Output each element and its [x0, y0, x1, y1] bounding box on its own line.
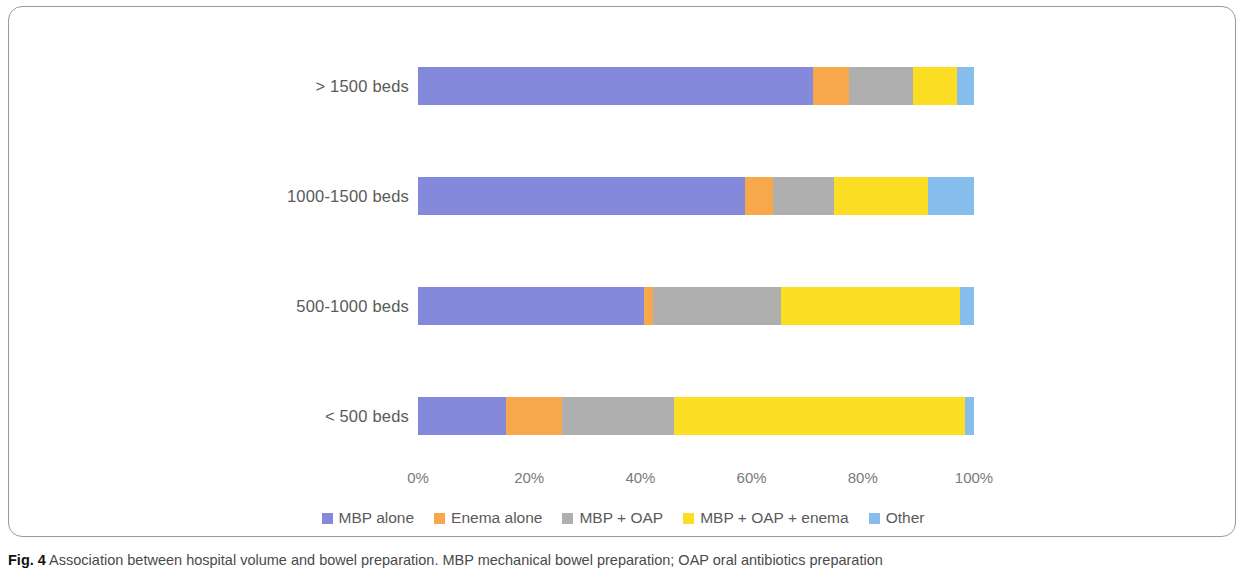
legend-label: MBP + OAP + enema	[700, 509, 848, 527]
bar-segment	[773, 177, 834, 215]
bar-segment	[957, 67, 974, 105]
x-axis: 0%20%40%60%80%100%	[418, 469, 974, 493]
bar-segment	[960, 287, 974, 325]
legend-swatch-icon	[869, 513, 880, 524]
x-tick-label: 80%	[848, 469, 878, 486]
figure-container: > 1500 beds 1000-1500 beds 500-1000 beds…	[0, 0, 1246, 586]
bar-segment	[834, 177, 928, 215]
legend-label: MBP alone	[339, 509, 415, 527]
legend-swatch-icon	[562, 513, 573, 524]
bar-row: 1000-1500 beds	[9, 172, 1237, 220]
bar-segment	[644, 287, 653, 325]
bar-segment	[928, 177, 974, 215]
legend-swatch-icon	[434, 513, 445, 524]
category-label: > 1500 beds	[159, 62, 409, 110]
legend-item: MBP alone	[322, 509, 415, 527]
bar-segment	[418, 397, 506, 435]
legend-label: Enema alone	[451, 509, 542, 527]
bar-segment	[674, 397, 965, 435]
legend-item: MBP + OAP	[562, 509, 663, 527]
legend-swatch-icon	[322, 513, 333, 524]
bar-segment	[418, 287, 644, 325]
stacked-bar	[418, 67, 974, 105]
category-label: < 500 beds	[159, 392, 409, 440]
caption-figure-number: Fig. 4	[8, 552, 46, 568]
bar-segment	[506, 397, 562, 435]
bar-row: 500-1000 beds	[9, 282, 1237, 330]
x-tick-label: 60%	[737, 469, 767, 486]
bar-segment	[781, 287, 960, 325]
bar-row: < 500 beds	[9, 392, 1237, 440]
legend-item: Enema alone	[434, 509, 542, 527]
plot-area: > 1500 beds 1000-1500 beds 500-1000 beds…	[9, 7, 1237, 538]
bar-segment	[418, 67, 813, 105]
bar-segment	[849, 67, 913, 105]
bar-segment	[562, 397, 674, 435]
chart-legend: MBP aloneEnema aloneMBP + OAPMBP + OAP +…	[9, 509, 1237, 527]
bar-segment	[745, 177, 773, 215]
bar-segment	[813, 67, 849, 105]
figure-caption: Fig. 4 Association between hospital volu…	[8, 552, 1238, 568]
legend-label: Other	[886, 509, 925, 527]
legend-label: MBP + OAP	[579, 509, 663, 527]
category-label: 1000-1500 beds	[159, 172, 409, 220]
bar-row: > 1500 beds	[9, 62, 1237, 110]
legend-item: MBP + OAP + enema	[683, 509, 848, 527]
bar-segment	[418, 177, 745, 215]
bar-segment	[913, 67, 957, 105]
x-tick-label: 100%	[955, 469, 993, 486]
stacked-bar	[418, 397, 974, 435]
stacked-bar	[418, 177, 974, 215]
caption-body: Association between hospital volume and …	[49, 552, 883, 568]
stacked-bar	[418, 287, 974, 325]
category-label: 500-1000 beds	[159, 282, 409, 330]
legend-item: Other	[869, 509, 925, 527]
legend-swatch-icon	[683, 513, 694, 524]
x-tick-label: 0%	[407, 469, 429, 486]
x-tick-label: 20%	[514, 469, 544, 486]
bar-segment	[965, 397, 974, 435]
x-tick-label: 40%	[625, 469, 655, 486]
chart-frame: > 1500 beds 1000-1500 beds 500-1000 beds…	[8, 6, 1236, 537]
bar-segment	[653, 287, 781, 325]
